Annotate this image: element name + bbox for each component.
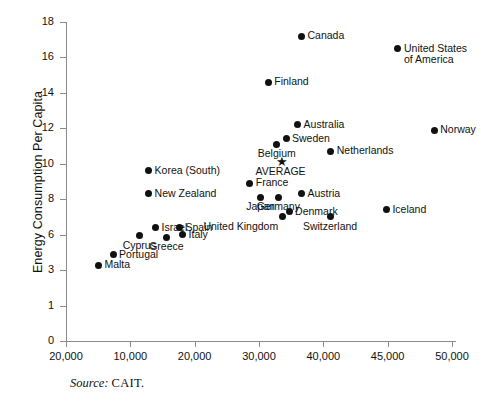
- x-tick-mark: [66, 341, 67, 347]
- y-tick-mark: [60, 199, 66, 200]
- data-point-marker: [286, 208, 293, 215]
- y-tick-label: 14: [18, 86, 54, 98]
- data-point-label: Netherlands: [337, 145, 394, 157]
- data-point-marker: [298, 33, 305, 40]
- y-tick-mark: [60, 235, 66, 236]
- data-point-marker: [394, 45, 401, 52]
- data-point-label: Austria: [307, 188, 340, 200]
- y-tick-label: 12: [18, 121, 54, 133]
- data-point-marker: [279, 213, 286, 220]
- data-point-label: Norway: [440, 124, 476, 136]
- y-tick-label: 10: [18, 157, 54, 169]
- y-tick-label: 3: [18, 263, 54, 275]
- data-point-marker: [145, 167, 152, 174]
- data-point-label: France: [256, 177, 289, 189]
- data-point-label: Italy: [189, 229, 208, 241]
- x-tick-mark: [323, 341, 324, 347]
- x-tick-label: 20,000: [160, 350, 230, 362]
- data-point-label: Australia: [304, 119, 345, 131]
- data-point-marker: [383, 206, 390, 213]
- y-tick-label: 6: [18, 228, 54, 240]
- y-tick-mark: [60, 57, 66, 58]
- data-point-marker: [246, 180, 253, 187]
- x-axis-line: [66, 341, 456, 342]
- x-tick-label: 10,000: [95, 350, 165, 362]
- y-tick-label: 18: [18, 15, 54, 27]
- data-point-label: New Zealand: [155, 188, 217, 200]
- x-tick-label: 40,000: [288, 350, 358, 362]
- data-point-label: Canada: [307, 30, 344, 42]
- x-tick-label: 30,000: [224, 350, 294, 362]
- source-value: CAIT.: [112, 376, 145, 390]
- data-point-label: Iceland: [392, 204, 426, 216]
- data-point-marker: [179, 231, 186, 238]
- x-tick-mark: [259, 341, 260, 347]
- y-tick-mark: [60, 306, 66, 307]
- x-tick-label: 50,000: [417, 350, 481, 362]
- data-point-marker: [265, 79, 272, 86]
- data-point-marker: [327, 148, 334, 155]
- data-point-marker: [431, 127, 438, 134]
- data-point-marker: [298, 190, 305, 197]
- x-tick-mark: [130, 341, 131, 347]
- y-tick-mark: [60, 93, 66, 94]
- data-point-label: Finland: [274, 76, 308, 88]
- data-point-marker: [152, 224, 159, 231]
- y-tick-mark: [60, 270, 66, 271]
- data-point-label: Korea (South): [155, 165, 220, 177]
- y-tick-label: 16: [18, 50, 54, 62]
- data-point-label: Malta: [104, 259, 130, 271]
- data-point-marker: [145, 190, 152, 197]
- y-tick-mark: [60, 164, 66, 165]
- x-tick-mark: [452, 341, 453, 347]
- y-tick-label: 1: [18, 299, 54, 311]
- data-point-marker: [95, 262, 102, 269]
- data-point-label: Switzerland: [303, 221, 357, 233]
- data-point-marker: [110, 251, 117, 258]
- y-tick-mark: [60, 128, 66, 129]
- data-point-label: United States of America: [404, 43, 467, 66]
- y-axis-line: [66, 22, 67, 341]
- x-tick-mark: [388, 341, 389, 347]
- y-tick-label: 0: [18, 334, 54, 346]
- y-tick-mark: [60, 22, 66, 23]
- y-tick-label: 8: [18, 192, 54, 204]
- x-tick-label: 20,000: [31, 350, 101, 362]
- data-point-label: Germany: [257, 201, 300, 213]
- data-point-label: Sweden: [292, 133, 330, 145]
- x-tick-mark: [195, 341, 196, 347]
- data-point-marker: [294, 121, 301, 128]
- source-note: Source: CAIT.: [70, 376, 144, 391]
- data-point-label: United Kingdom: [203, 221, 278, 233]
- data-point-marker: [283, 135, 290, 142]
- source-label: Source:: [70, 376, 108, 390]
- x-tick-label: 45,000: [353, 350, 423, 362]
